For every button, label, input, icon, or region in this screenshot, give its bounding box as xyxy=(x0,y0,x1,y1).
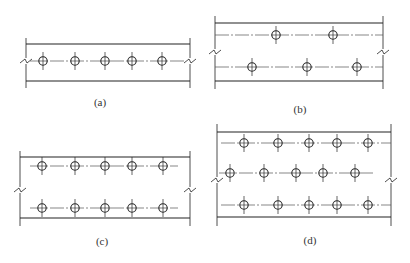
bolt-hole-icon xyxy=(274,134,282,152)
bolt-hole-icon xyxy=(319,164,327,182)
bolt-hole-icon xyxy=(128,157,136,175)
bolt-hole-icon xyxy=(305,134,313,152)
bolt-hole-icon xyxy=(333,134,341,152)
bolt-hole-icon xyxy=(329,26,337,44)
panel-b xyxy=(209,16,389,89)
panel-label-c: (c) xyxy=(96,235,108,247)
panel-label-a: (a) xyxy=(94,96,106,108)
bolt-hole-icon xyxy=(248,58,256,76)
bolt-hole-icon xyxy=(272,26,280,44)
bolt-hole-icon xyxy=(240,196,248,214)
bolt-hole-icon xyxy=(260,164,268,182)
bolt-hole-icon xyxy=(292,164,300,182)
bolt-hole-icon xyxy=(101,157,109,175)
bolt-hole-icon xyxy=(38,157,46,175)
bolt-hole-icon xyxy=(303,58,311,76)
panel-c xyxy=(14,151,196,226)
bolt-hole-icon xyxy=(101,52,109,70)
bolt-hole-icon xyxy=(305,196,313,214)
bolt-hole-icon xyxy=(159,199,167,217)
panel-a xyxy=(20,38,196,88)
bolt-hole-icon xyxy=(351,164,359,182)
panel-label-b: (b) xyxy=(294,103,307,115)
bolt-hole-icon xyxy=(38,199,46,217)
bolt-hole-icon xyxy=(159,157,167,175)
bolt-hole-icon xyxy=(274,196,282,214)
bolt-hole-icon xyxy=(128,52,136,70)
panel-label-d: (d) xyxy=(304,234,317,246)
bolt-arrangement-diagram xyxy=(0,0,410,263)
bolt-hole-icon xyxy=(226,164,234,182)
bolt-hole-icon xyxy=(158,52,166,70)
bolt-hole-icon xyxy=(128,199,136,217)
bolt-hole-icon xyxy=(364,134,372,152)
bolt-hole-icon xyxy=(101,199,109,217)
bolt-hole-icon xyxy=(71,157,79,175)
bolt-hole-icon xyxy=(353,58,361,76)
bolt-hole-icon xyxy=(240,134,248,152)
bolt-hole-icon xyxy=(71,52,79,70)
bolt-hole-icon xyxy=(333,196,341,214)
bolt-hole-icon xyxy=(39,52,47,70)
bolt-hole-icon xyxy=(71,199,79,217)
bolt-hole-icon xyxy=(364,196,372,214)
panel-d xyxy=(211,124,397,226)
